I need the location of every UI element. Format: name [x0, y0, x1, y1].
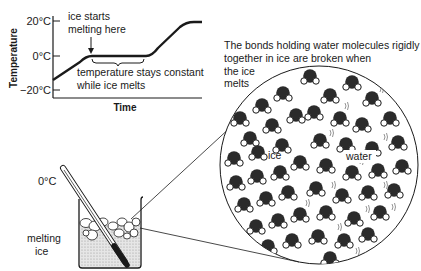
melting-ice-diagram: Temperature 20°C 0°C −20°C Time ice star…: [0, 0, 421, 271]
zoom-line-top: [131, 125, 233, 219]
annotation-ice-starts: ice starts: [68, 10, 110, 22]
ice-region-label: ice: [268, 149, 282, 161]
melting-ice-label-line2: ice: [35, 245, 49, 257]
water-region-label: water: [345, 150, 372, 162]
arrow-head-icon: [88, 48, 94, 54]
melting-ice-label-line1: melting: [27, 232, 61, 244]
x-axis-label: Time: [113, 102, 137, 113]
tick-20c: 20°C: [26, 15, 51, 27]
magnified-view: The bonds holding water molecules rigidl…: [220, 39, 420, 266]
temperature-graph: Temperature 20°C 0°C −20°C Time ice star…: [8, 10, 204, 113]
tick-minus20c: −20°C: [20, 84, 51, 96]
caption-line-4: melts: [224, 77, 249, 89]
annotation-temperature-constant: temperature stays constant: [77, 66, 204, 78]
caption-line-3: the ice: [224, 65, 255, 77]
annotation-melting-here: melting here: [68, 23, 126, 35]
tick-0c: 0°C: [33, 50, 52, 62]
annotation-while-ice-melts: while ice melts: [76, 79, 145, 91]
y-axis-label: Temperature: [8, 28, 19, 88]
thermometer-reading: 0°C: [38, 175, 57, 187]
plateau-brace: [92, 59, 144, 66]
caption-line-1: The bonds holding water molecules rigidl…: [224, 39, 420, 51]
caption-line-2: together in ice are broken when: [224, 52, 371, 64]
beaker-illustration: 0°C melting ice: [27, 168, 143, 268]
